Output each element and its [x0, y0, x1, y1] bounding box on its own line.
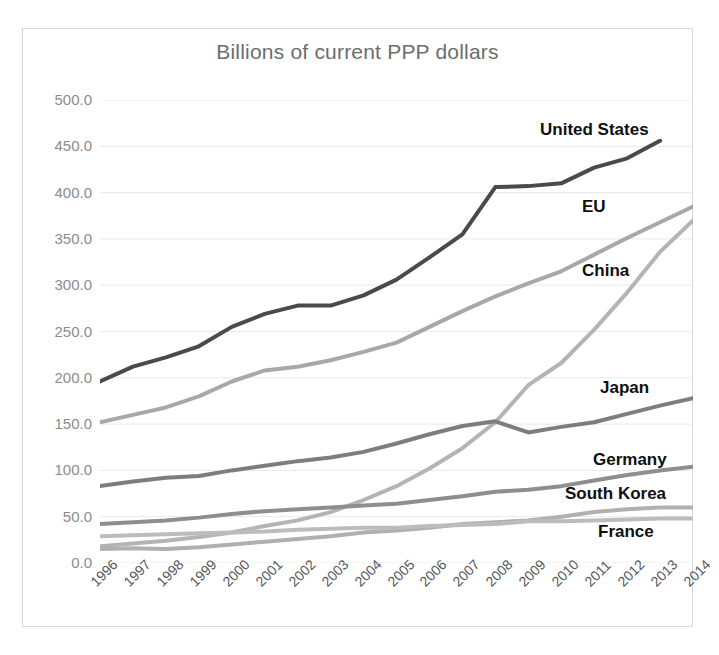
x-axis-tick-label: 2002 [286, 557, 318, 589]
x-axis-tick-label: 2010 [549, 557, 581, 589]
x-axis-tick-label: 1999 [187, 557, 219, 589]
x-axis-tick-label: 2013 [648, 557, 680, 589]
x-axis-tick-label: 2014 [681, 557, 713, 589]
x-axis-tick-label: 2006 [417, 557, 449, 589]
series-label-south-korea: South Korea [565, 485, 666, 502]
x-axis-tick-label: 2008 [483, 557, 515, 589]
x-axis: 1996199719981999200020012002200320042005… [0, 0, 719, 655]
chart-container: Billions of current PPP dollars 500.0450… [0, 0, 719, 655]
series-label-eu: EU [582, 198, 606, 215]
x-axis-tick-label: 1996 [88, 557, 120, 589]
series-label-japan: Japan [600, 379, 649, 396]
x-axis-tick-label: 2004 [352, 557, 384, 589]
x-axis-tick-label: 2012 [615, 557, 647, 589]
series-label-france: France [598, 523, 654, 540]
x-axis-tick-label: 1997 [121, 557, 153, 589]
series-label-germany: Germany [593, 451, 667, 468]
x-axis-tick-label: 2009 [516, 557, 548, 589]
series-label-united-states: United States [540, 121, 649, 138]
x-axis-tick-label: 2001 [253, 557, 285, 589]
x-axis-tick-label: 2007 [450, 557, 482, 589]
x-axis-tick-label: 2003 [319, 557, 351, 589]
series-label-china: China [582, 262, 629, 279]
x-axis-tick-label: 1998 [154, 557, 186, 589]
x-axis-tick-label: 2011 [582, 558, 613, 589]
x-axis-tick-label: 2005 [385, 557, 417, 589]
x-axis-tick-label: 2000 [220, 557, 252, 589]
